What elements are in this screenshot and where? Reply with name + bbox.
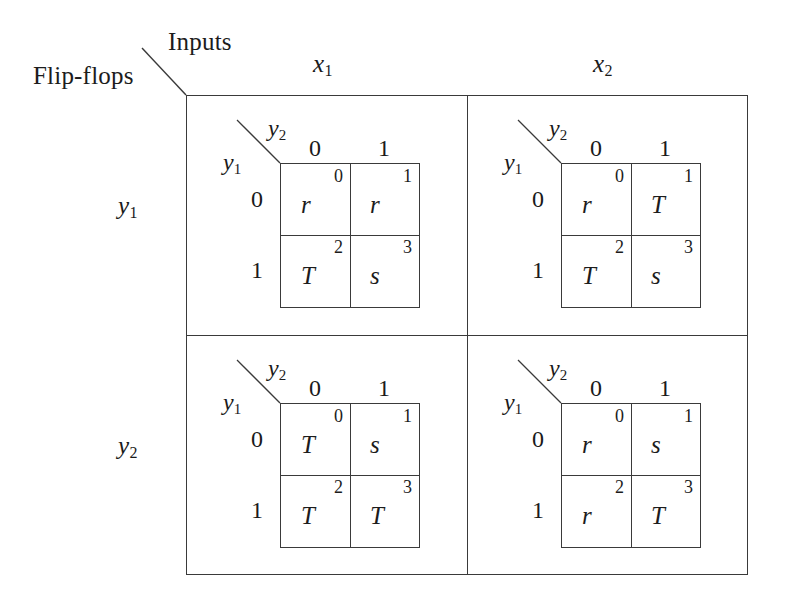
kmap-y2-x1-left-var-sub: 1: [234, 401, 242, 417]
kmap-y2-x1-cell-3[interactable]: 3 T: [350, 475, 419, 546]
kmap-y2-x2-cell-0-index: 0: [615, 406, 624, 427]
kmap-y2-x2-col-header-0: 0: [584, 375, 608, 402]
kmap-y1-x1-row-header-1: 1: [246, 257, 268, 284]
kmap-y2-x2: y2 y1 0 1 0 1 0 r 1 s 2 r 3 T: [494, 353, 694, 548]
kmap-y2-x1-top-var-sub: 2: [279, 367, 287, 383]
kmap-y1-x2-left-var-letter: y: [504, 149, 515, 175]
kmap-y1-x1-cell-1-value: r: [370, 191, 380, 219]
outer-row-header-y1-sub: 1: [130, 204, 138, 221]
kmap-y2-x2-col-header-1: 1: [653, 375, 677, 402]
kmap-y2-x2-cell-3[interactable]: 3 T: [631, 475, 700, 546]
kmap-y2-x1-cell-0[interactable]: 0 T: [281, 404, 350, 475]
outer-row-header-y2: y2: [118, 432, 138, 462]
outer-column-header-x1-sub: 1: [325, 62, 333, 79]
flipflops-axis-label: Flip-flops: [33, 62, 134, 90]
kmap-y2-x2-cell-3-value: T: [651, 502, 665, 530]
kmap-y2-x2-top-var-sub: 2: [560, 367, 568, 383]
outer-column-header-x2-sub: 2: [605, 62, 613, 79]
kmap-y2-x2-left-var-letter: y: [504, 389, 515, 415]
kmap-y1-x1-left-var: y1: [223, 149, 241, 178]
kmap-y1-x2-cell-2-index: 2: [615, 237, 624, 258]
kmap-y2-x1-cell-1-value: s: [370, 431, 380, 459]
kmap-y2-x1-row-header-1: 1: [246, 497, 268, 524]
kmap-y1-x1-top-var: y2: [268, 115, 286, 144]
kmap-y1-x1-col-header-0: 0: [303, 135, 327, 162]
kmap-y1-x1-cell-1[interactable]: 1 r: [350, 164, 419, 235]
kmap-y2-x2-row-header-1: 1: [527, 497, 549, 524]
kmap-y1-x1-col-header-1: 1: [372, 135, 396, 162]
kmap-y1-x2-row-header-1: 1: [527, 257, 549, 284]
kmap-y2-x1-col-header-0: 0: [303, 375, 327, 402]
kmap-y2-x1-row-header-0: 0: [246, 426, 268, 453]
kmap-y2-x2-cell-2-value: r: [582, 502, 592, 530]
kmap-y1-x1-left-var-sub: 1: [234, 161, 242, 177]
kmap-y1-x1-cell-3[interactable]: 3 s: [350, 235, 419, 306]
outer-horizontal-divider: [186, 335, 748, 336]
outer-column-header-x1-var: x: [313, 50, 324, 77]
kmap-y1-x2-col-header-0: 0: [584, 135, 608, 162]
kmap-y2-x2-grid: 0 r 1 s 2 r 3 T: [561, 403, 701, 548]
kmap-y2-x2-cell-1[interactable]: 1 s: [631, 404, 700, 475]
kmap-y1-x2-top-var: y2: [549, 115, 567, 144]
kmap-y1-x1-cell-2-value: T: [301, 262, 315, 290]
kmap-y1-x2-cell-0[interactable]: 0 r: [562, 164, 631, 235]
kmap-y2-x2-top-var: y2: [549, 355, 567, 384]
kmap-y2-x1-cell-1[interactable]: 1 s: [350, 404, 419, 475]
kmap-y1-x2-cell-0-index: 0: [615, 166, 624, 187]
kmap-y2-x1-cell-2[interactable]: 2 T: [281, 475, 350, 546]
kmap-y1-x1-cell-0[interactable]: 0 r: [281, 164, 350, 235]
outer-row-header-y1: y1: [118, 192, 138, 222]
kmap-y2-x1-cell-2-index: 2: [334, 477, 343, 498]
kmap-y2-x1-cell-2-value: T: [301, 502, 315, 530]
kmap-y1-x2-left-var: y1: [504, 149, 522, 178]
kmap-y1-x2-left-var-sub: 1: [515, 161, 523, 177]
kmap-y1-x2-cell-2-value: T: [582, 262, 596, 290]
kmap-y1-x2-cell-3[interactable]: 3 s: [631, 235, 700, 306]
kmap-y2-x1-cell-0-index: 0: [334, 406, 343, 427]
kmap-y1-x2-col-header-1: 1: [653, 135, 677, 162]
kmap-y1-x2-row-header-0: 0: [527, 186, 549, 213]
kmap-y1-x2-cell-3-index: 3: [684, 237, 693, 258]
kmap-y2-x1-cell-3-index: 3: [403, 477, 412, 498]
kmap-y1-x2: y2 y1 0 1 0 1 0 r 1 T 2 T 3 s: [494, 113, 694, 308]
kmap-y2-x2-row-header-0: 0: [527, 426, 549, 453]
kmap-y2-x2-cell-1-index: 1: [684, 406, 693, 427]
kmap-y1-x1: y2 y1 0 1 0 1 0 r 1 r 2 T 3 s: [213, 113, 413, 308]
kmap-y1-x2-cell-1-index: 1: [684, 166, 693, 187]
kmap-y2-x1-cell-0-value: T: [301, 431, 315, 459]
kmap-y2-x1-left-var-letter: y: [223, 389, 234, 415]
inputs-axis-label: Inputs: [168, 28, 232, 56]
kmap-y1-x1-cell-3-index: 3: [403, 237, 412, 258]
outer-row-header-y2-sub: 2: [130, 444, 138, 461]
outer-row-header-y2-var: y: [118, 432, 129, 459]
kmap-y2-x2-cell-1-value: s: [651, 431, 661, 459]
kmap-y1-x1-row-header-0: 0: [246, 186, 268, 213]
outer-column-header-x1: x1: [313, 50, 333, 80]
kmap-y1-x1-left-var-letter: y: [223, 149, 234, 175]
kmap-y1-x1-cell-3-value: s: [370, 262, 380, 290]
kmap-y2-x1-left-var: y1: [223, 389, 241, 418]
kmap-y2-x2-cell-0[interactable]: 0 r: [562, 404, 631, 475]
kmap-y2-x2-left-var-sub: 1: [515, 401, 523, 417]
kmap-y2-x1-col-header-1: 1: [372, 375, 396, 402]
kmap-y2-x1-top-var: y2: [268, 355, 286, 384]
kmap-y2-x2-cell-2[interactable]: 2 r: [562, 475, 631, 546]
kmap-y2-x2-cell-3-index: 3: [684, 477, 693, 498]
kmap-y2-x2-cell-2-index: 2: [615, 477, 624, 498]
kmap-y1-x2-cell-1[interactable]: 1 T: [631, 164, 700, 235]
kmap-y1-x1-top-var-sub: 2: [279, 127, 287, 143]
kmap-y2-x2-cell-0-value: r: [582, 431, 592, 459]
kmap-y1-x1-cell-1-index: 1: [403, 166, 412, 187]
kmap-y1-x1-cell-2[interactable]: 2 T: [281, 235, 350, 306]
kmap-y1-x2-cell-1-value: T: [651, 191, 665, 219]
kmap-y2-x1-cell-1-index: 1: [403, 406, 412, 427]
kmap-y2-x1-cell-3-value: T: [370, 502, 384, 530]
kmap-y2-x1-top-var-letter: y: [268, 355, 279, 381]
kmap-y1-x2-top-var-letter: y: [549, 115, 560, 141]
kmap-y1-x2-cell-2[interactable]: 2 T: [562, 235, 631, 306]
kmap-y2-x1-grid: 0 T 1 s 2 T 3 T: [280, 403, 420, 548]
kmap-y2-x2-left-var: y1: [504, 389, 522, 418]
kmap-y1-x2-top-var-sub: 2: [560, 127, 568, 143]
kmap-y2-x1: y2 y1 0 1 0 1 0 T 1 s 2 T 3 T: [213, 353, 413, 548]
kmap-y1-x1-top-var-letter: y: [268, 115, 279, 141]
